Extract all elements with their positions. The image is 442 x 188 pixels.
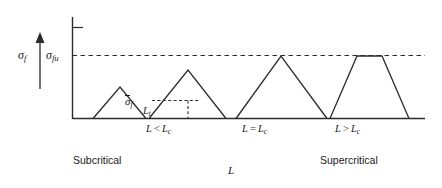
x-axis-label: L bbox=[228, 165, 234, 176]
case-label-l-less-than-lc: L < Lc bbox=[146, 124, 171, 136]
mean-stress-subscript: f bbox=[130, 100, 132, 109]
case-ref-subscript: c bbox=[357, 127, 360, 136]
stress-profile-l-greater-than-lc bbox=[330, 56, 409, 119]
mean-stress-label: σf bbox=[125, 96, 133, 109]
case-operator: > bbox=[343, 123, 349, 134]
regime-label-subcritical: Subcritical bbox=[73, 155, 121, 166]
transfer-length-subscript: t bbox=[149, 109, 151, 118]
stress-profile-subcritical-short bbox=[93, 87, 146, 119]
case-ref-subscript: c bbox=[168, 127, 171, 136]
sigma-fu-subscript: fu bbox=[52, 53, 59, 63]
sigma-fu-label: σfu bbox=[46, 49, 59, 63]
figure-container: σf σfu σf Lt L < Lc L = Lc L > Lc Subcri… bbox=[0, 0, 442, 188]
transfer-length-label: Lt bbox=[143, 106, 151, 118]
y-axis-arrow-head bbox=[36, 32, 45, 43]
mean-stress-symbol: σ bbox=[125, 96, 130, 107]
case-symbol: L bbox=[242, 123, 248, 134]
case-label-l-greater-than-lc: L > Lc bbox=[335, 124, 360, 136]
case-operator: < bbox=[154, 123, 160, 134]
y-axis-label: σf bbox=[18, 49, 26, 63]
y-axis-label-subscript: f bbox=[24, 53, 26, 63]
case-symbol: L bbox=[335, 123, 341, 134]
case-ref-subscript: c bbox=[264, 127, 267, 136]
case-label-l-equals-lc: L = Lc bbox=[242, 124, 267, 136]
stress-profile-l-equals-lc bbox=[236, 56, 327, 119]
case-operator: = bbox=[250, 123, 256, 134]
case-symbol: L bbox=[146, 123, 152, 134]
stress-profile-l-less-than-lc bbox=[149, 70, 226, 119]
regime-label-supercritical: Supercritical bbox=[320, 155, 378, 166]
